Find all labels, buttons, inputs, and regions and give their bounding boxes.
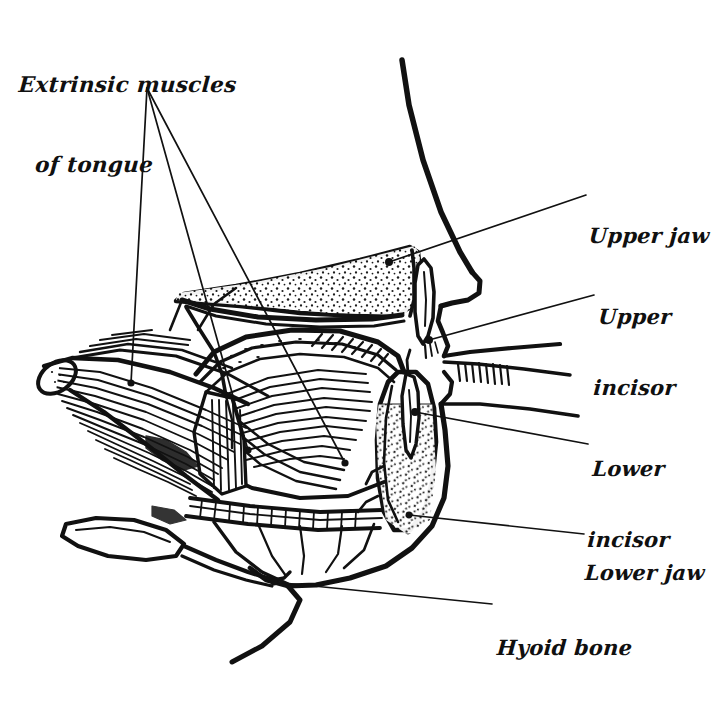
- label-upper-incisor-line-2: incisor: [593, 376, 677, 400]
- label-hyoid-bone-line-1: Hyoid bone: [496, 636, 633, 660]
- title-extrinsic-muscles-of-tongue: Extrinsic muscles of tongue: [8, 18, 241, 233]
- label-lower-incisor-line-1: Lower: [592, 457, 676, 481]
- title-line-2: of tongue: [12, 152, 232, 179]
- title-line-1: Extrinsic muscles: [18, 72, 238, 99]
- hyoid-bone: [62, 518, 290, 586]
- label-upper-incisor-line-1: Upper: [598, 305, 682, 329]
- lower-incisor-tooth: [402, 350, 419, 458]
- leader-lower-incisor: [415, 412, 588, 444]
- label-lower-jaw-line-1: Lower jaw: [584, 561, 705, 585]
- label-hyoid-bone: Hyoid bone: [493, 589, 637, 701]
- anatomical-figure: Extrinsic muscles of tongue Upper jaw Up…: [0, 0, 727, 701]
- leader-hyoid-bone: [274, 582, 492, 604]
- upper-incisor-tooth: [415, 259, 438, 358]
- label-upper-jaw-line-1: Upper jaw: [588, 224, 710, 248]
- leader-upper-jaw: [389, 195, 586, 262]
